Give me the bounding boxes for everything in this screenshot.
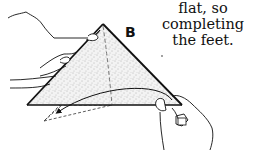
finger-mid — [60, 57, 70, 63]
step-label-b: B — [125, 24, 136, 40]
thumb-top — [88, 34, 98, 41]
speck — [161, 55, 163, 57]
thumb-right — [156, 98, 166, 110]
hidden-flap-outline — [44, 105, 112, 121]
hand-top-left — [8, 12, 100, 40]
instruction-caption: flat, so completing the feet. — [142, 0, 264, 48]
caption-line-2: the feet. — [142, 32, 264, 48]
fingernail-right — [178, 118, 186, 125]
caption-line-1: flat, so completing — [142, 0, 264, 32]
hand-right-palm — [160, 112, 164, 150]
